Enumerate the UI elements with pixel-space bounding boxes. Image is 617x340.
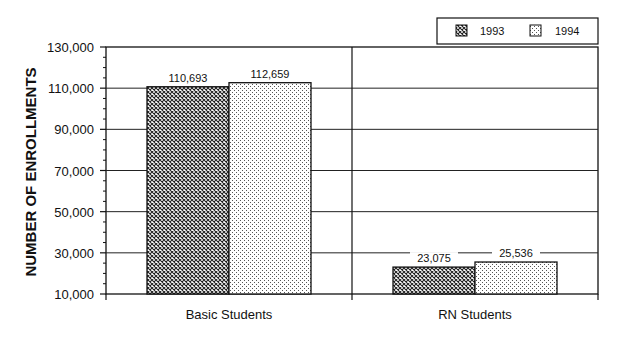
bar-1994-0 (229, 83, 311, 294)
y-tick-label: 130,000 (47, 40, 94, 55)
legend: 1993 1994 (437, 18, 598, 44)
y-tick-label: 70,000 (54, 164, 94, 179)
x-category-label: RN Students (438, 307, 512, 322)
y-tick-label: 50,000 (54, 205, 94, 220)
bar-1994-1 (475, 262, 557, 294)
x-category-label: Basic Students (186, 307, 273, 322)
y-axis-label: NUMBER OF ENROLLMENTS (22, 67, 39, 276)
data-label: 25,536 (499, 247, 533, 259)
data-label: 23,075 (417, 252, 451, 264)
y-tick-label: 30,000 (54, 246, 94, 261)
x-axis: Basic StudentsRN Students (186, 307, 513, 322)
y-tick-label: 10,000 (54, 287, 94, 302)
legend-label-1994: 1994 (555, 25, 579, 37)
data-label: 112,659 (251, 68, 290, 80)
y-axis: 10,00030,00050,00070,00090,000110,000130… (47, 40, 106, 302)
bar-1993-0 (147, 87, 229, 294)
data-label: 110,693 (169, 72, 208, 84)
y-tick-label: 110,000 (48, 81, 94, 96)
legend-swatch-1993 (456, 25, 467, 36)
legend-label-1993: 1993 (480, 25, 504, 37)
y-tick-label: 90,000 (54, 122, 94, 137)
legend-swatch-1994 (530, 25, 541, 36)
bar-1993-1 (393, 267, 475, 294)
enrollment-bar-chart: 1993 1994 NUMBER OF ENROLLMENTS 10,00030… (0, 0, 617, 340)
